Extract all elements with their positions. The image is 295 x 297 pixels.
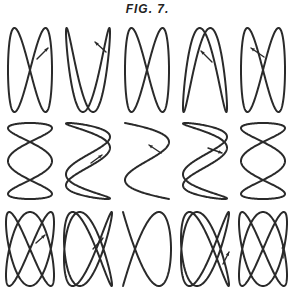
curve-path — [125, 28, 169, 112]
curve-path — [241, 123, 285, 199]
lissajous-curve-ratio-2-3-4 — [181, 212, 229, 286]
lissajous-curve-ratio-1-2-3 — [125, 28, 169, 112]
lissajous-curve-ratio-1-2-1 — [8, 28, 52, 112]
lissajous-curve-ratio-2-3-2 — [64, 212, 112, 286]
lissajous-curve-ratio-3-1-1 — [8, 123, 52, 199]
curve-path — [125, 123, 169, 199]
lissajous-figure-grid — [0, 0, 295, 297]
lissajous-curve-ratio-3-1-3 — [125, 123, 169, 199]
arrowhead-icon — [218, 150, 222, 153]
lissajous-curve-ratio-1-2-5 — [241, 28, 285, 112]
curve-path — [8, 123, 52, 199]
curve-path — [123, 212, 171, 286]
lissajous-curve-ratio-3-1-5 — [241, 123, 285, 199]
curve-path — [66, 123, 110, 199]
curve-path — [239, 212, 287, 286]
curve-path — [183, 123, 227, 199]
lissajous-curve-ratio-2-3-3 — [123, 212, 171, 286]
lissajous-curve-ratio-2-3-1 — [6, 212, 54, 286]
curve-path — [183, 28, 227, 112]
curve-path — [6, 212, 54, 286]
curve-path — [66, 28, 110, 112]
curve-path — [8, 28, 52, 112]
lissajous-curve-ratio-2-3-5 — [239, 212, 287, 286]
lissajous-curve-ratio-1-2-2 — [66, 28, 110, 112]
curve-path — [181, 212, 229, 286]
curves-group — [6, 28, 287, 286]
curve-path — [64, 212, 112, 286]
lissajous-curve-ratio-3-1-4 — [183, 123, 227, 199]
curve-path — [241, 28, 285, 112]
lissajous-curve-ratio-1-2-4 — [183, 28, 227, 112]
lissajous-curve-ratio-3-1-2 — [66, 123, 110, 199]
